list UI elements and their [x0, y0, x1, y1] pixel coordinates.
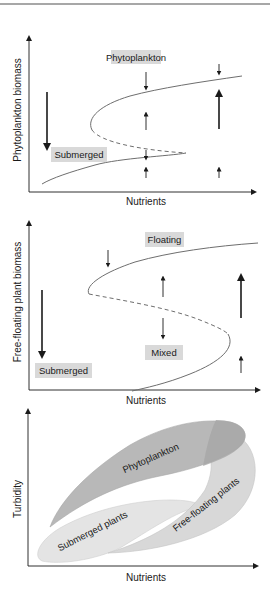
- state-label-submerged: Submerged: [54, 149, 103, 160]
- upper-stable-branch: [88, 243, 258, 294]
- state-label-mixed: Mixed: [151, 347, 176, 358]
- y-axis-label: Phytoplankton biomass: [12, 58, 23, 161]
- x-axis-label: Nutrients: [126, 572, 166, 583]
- lower-stable-branch: [132, 334, 230, 391]
- panel-floating-plant-bistability: Free-floating plant biomass Nutrients Fl…: [12, 223, 258, 406]
- state-label-floating: Floating: [148, 234, 182, 245]
- y-axis-label: Free-floating plant biomass: [12, 242, 23, 363]
- panel-phytoplankton-bistability: Phytoplankton biomass Nutrients Phytopla…: [12, 38, 254, 207]
- panel-turbidity-regimes: Turbidity Nutrients Phytoplankton Submer…: [12, 411, 256, 583]
- y-axis-label: Turbidity: [12, 480, 23, 518]
- figure: Phytoplankton biomass Nutrients Phytopla…: [0, 0, 270, 594]
- x-axis-label: Nutrients: [126, 196, 166, 207]
- state-label-phytoplankton: Phytoplankton: [106, 52, 166, 63]
- x-axis-label: Nutrients: [126, 395, 166, 406]
- state-label-submerged: Submerged: [39, 365, 88, 376]
- unstable-branch: [89, 294, 228, 334]
